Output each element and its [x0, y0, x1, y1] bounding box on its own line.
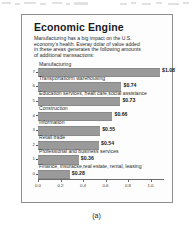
chart-row: Retail trade 2 $0.54 [30, 134, 172, 149]
bar-chart-plot-area: Manufacturing 7 $1.08 Transportatiorm wa… [30, 61, 172, 179]
x-axis-tick-mark [128, 179, 129, 182]
bar-category-label: Professional and business services [39, 148, 119, 154]
y-axis-tick-label: 7 [30, 69, 35, 74]
chart-row: Transportatiorm warehousing 6 $0.74 [30, 76, 172, 91]
x-axis-tick-label: 0.4 [80, 183, 86, 188]
bar-value-label: $0.28 [72, 170, 85, 176]
bar-value-label: $0.66 [115, 111, 128, 117]
x-axis-tick-label: 0.8 [125, 183, 131, 188]
y-axis-tick-label: 4 [30, 113, 35, 118]
bar-category-label: Manufacturing [39, 61, 71, 67]
x-axis-tick-mark [151, 179, 152, 182]
description-line: of additional transsactions: [34, 53, 166, 59]
y-axis-tick-label: 2 [30, 142, 35, 147]
x-axis-line [38, 179, 164, 180]
y-axis-tick-label: 5 [30, 98, 35, 103]
bar-value-label: $0.54 [101, 140, 114, 146]
x-axis-tick-mark [61, 179, 62, 182]
chart-title: Economic Engine [34, 21, 166, 33]
bar-category-label: Construction [39, 105, 68, 111]
bar-category-label: Education services, healt care,social as… [39, 90, 147, 96]
x-axis-tick-mark [38, 179, 39, 182]
chart-row: Education services, healt care,social as… [30, 91, 172, 106]
bar-value-label: $0.74 [124, 82, 137, 88]
bar-value-label: $0.73 [122, 97, 135, 103]
bar-category-label: Information [39, 119, 64, 125]
bar-category-label: Transportatiorm warehousing [39, 75, 105, 81]
bar-value-label: $1.08 [162, 67, 175, 73]
y-axis-tick-label: 0 [30, 171, 35, 176]
x-axis-tick-label: 0.6 [102, 183, 108, 188]
x-axis-tick-label: 1.0 [147, 183, 153, 188]
x-axis: 0.0 0.2 0.4 0.6 0.8 1.0 [30, 179, 172, 193]
bar-category-label: Retail trade [39, 134, 65, 140]
x-axis-tick-label: 0.2 [57, 183, 63, 188]
y-axis-tick-label: 6 [30, 83, 35, 88]
x-axis-tick-mark [106, 179, 107, 182]
bar-category-label: Finance, insuracse,real estate, rental, … [39, 163, 142, 169]
figure-caption: (a) [0, 212, 193, 219]
chart-row: Information 3 $0.55 [30, 120, 172, 135]
y-axis-tick-label: 1 [30, 156, 35, 161]
bar-value-label: $0.55 [102, 126, 115, 132]
chart-row: Construction 4 $0.66 [30, 105, 172, 120]
chart-description: Manufacturing has a big impact on the U.… [34, 36, 166, 58]
bar-finance-insurance-realestate [38, 170, 70, 179]
x-axis-tick-label: 0.0 [35, 183, 41, 188]
chart-row: Finance, insuracse,real estate, rental, … [30, 164, 172, 179]
chart-row: Professional and business services 1 $0.… [30, 149, 172, 164]
chart-row: Manufacturing 7 $1.08 [30, 61, 172, 76]
figure-panel: Economic Engine Manufacturing has a big … [21, 14, 173, 203]
y-axis-tick-label: 3 [30, 127, 35, 132]
scan-artifacts [0, 0, 193, 10]
bar-value-label: $0.36 [81, 155, 94, 161]
x-axis-tick-mark [83, 179, 84, 182]
